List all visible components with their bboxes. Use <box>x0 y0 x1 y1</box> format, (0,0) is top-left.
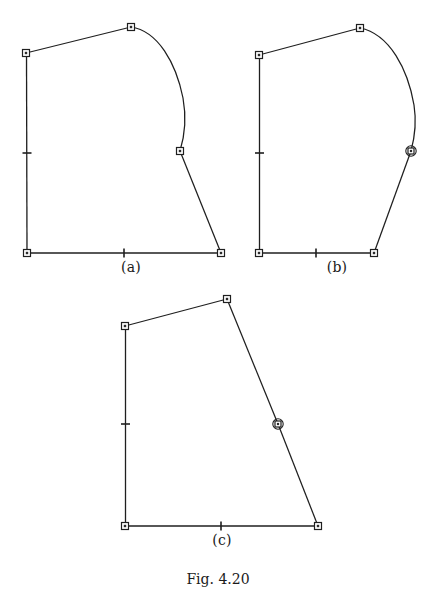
panel-c-node-mid-right <box>273 419 283 429</box>
panel-c-node-bottom-right <box>315 523 322 530</box>
panel-b-node-bottom-left <box>256 250 263 257</box>
panel-c-node-apex <box>224 296 231 303</box>
panel-b-node-top-left <box>256 52 263 59</box>
panel-a-upper-left-chord <box>26 27 131 53</box>
figure-sheet: (a) (b) (c) Fig. 4.20 <box>0 0 436 602</box>
panel-a-node-top-left <box>23 50 30 57</box>
panel-c-upper-right-edge <box>227 299 278 424</box>
panel-a-right-curve <box>131 27 185 151</box>
panel-c-label: (c) <box>196 532 248 548</box>
panel-b-node-mid-right <box>406 146 416 156</box>
panel-a-node-bottom-right <box>218 250 225 257</box>
figure-drawing-canvas <box>0 0 436 602</box>
panel-b-lower-right-edge <box>374 151 411 253</box>
panel-a-node-bottom-left <box>24 250 31 257</box>
panel-c-node-top-left <box>122 323 129 330</box>
panel-b <box>255 25 416 258</box>
panel-a-node-apex <box>128 24 135 31</box>
panel-b-node-apex <box>357 25 364 32</box>
panel-a-lower-right-edge <box>180 151 221 253</box>
panel-b-right-curve <box>360 28 415 151</box>
panel-c <box>121 296 322 531</box>
panel-b-label: (b) <box>311 259 363 275</box>
panel-c-node-bottom-left <box>122 523 129 530</box>
panel-c-upper-left-chord <box>125 299 227 326</box>
panel-c-lower-right-edge <box>278 424 318 526</box>
figure-caption: Fig. 4.20 <box>0 571 436 587</box>
panel-a-label: (a) <box>105 259 157 275</box>
panel-a-node-mid-right <box>177 148 184 155</box>
panel-b-node-bottom-right <box>371 250 378 257</box>
panel-b-upper-left-chord <box>259 28 360 55</box>
panel-a <box>23 24 225 258</box>
